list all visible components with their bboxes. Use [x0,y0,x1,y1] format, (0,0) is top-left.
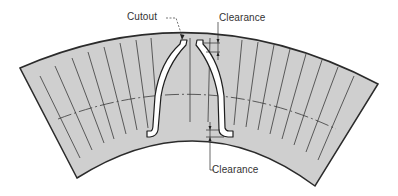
clearance-bottom-label: Clearance [212,164,258,175]
sector-drawing [0,0,398,196]
diagram: Cutout Clearance Clearance [0,0,398,196]
clearance-top-label: Clearance [219,12,265,23]
cutout-label: Cutout [127,11,157,22]
